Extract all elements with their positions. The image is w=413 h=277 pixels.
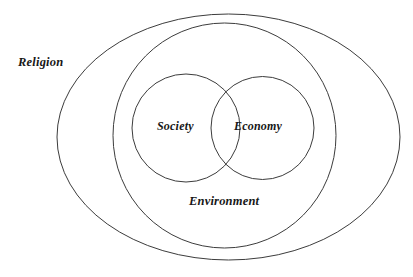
venn-diagram: Religion Society Economy Environment (0, 0, 413, 277)
religion-ellipse (57, 14, 400, 260)
society-label: Society (157, 120, 194, 132)
venn-diagram-canvas (0, 0, 413, 277)
religion-label: Religion (18, 56, 63, 69)
environment-ellipse (113, 23, 336, 248)
environment-label: Environment (189, 195, 259, 208)
economy-label: Economy (234, 120, 282, 132)
